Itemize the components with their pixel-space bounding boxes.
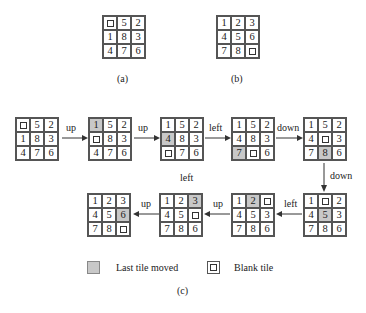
tile: 6 bbox=[260, 146, 274, 160]
tile: 7 bbox=[30, 146, 44, 160]
tile: 1 bbox=[217, 16, 231, 30]
blank-tile-icon bbox=[107, 20, 114, 27]
tile: 8 bbox=[30, 132, 44, 146]
tile: 4 bbox=[232, 132, 246, 146]
tile: 1 bbox=[232, 194, 246, 208]
tile: 7 bbox=[232, 222, 246, 236]
tile: 5 bbox=[102, 208, 116, 222]
tile: 6 bbox=[131, 44, 145, 58]
arrow-left-icon bbox=[276, 210, 302, 218]
tile: 3 bbox=[44, 132, 58, 146]
tile: 4 bbox=[304, 132, 318, 146]
tile: 8 bbox=[174, 222, 188, 236]
blank-tile bbox=[161, 146, 175, 160]
tile: 5 bbox=[318, 208, 332, 222]
tile: 3 bbox=[189, 132, 203, 146]
tile: 8 bbox=[246, 132, 260, 146]
blank-tile bbox=[318, 194, 332, 208]
tile: 8 bbox=[318, 146, 332, 160]
tile: 5 bbox=[175, 118, 189, 132]
blank-tile bbox=[245, 44, 259, 58]
tile: 7 bbox=[217, 44, 231, 58]
tile: 8 bbox=[102, 222, 116, 236]
tile: 7 bbox=[88, 222, 102, 236]
tile: 5 bbox=[231, 30, 245, 44]
sequence-grid-6: 12453786 bbox=[303, 193, 347, 237]
tile: 4 bbox=[217, 30, 231, 44]
legend-moved-label: Last tile moved bbox=[116, 262, 178, 273]
tile: 8 bbox=[103, 132, 117, 146]
move-label-6: left bbox=[284, 198, 297, 209]
tile: 2 bbox=[332, 118, 346, 132]
tile: 6 bbox=[332, 222, 346, 236]
tile: 1 bbox=[304, 118, 318, 132]
sequence-grid-4: 15248376 bbox=[231, 117, 275, 161]
blank-tile-icon bbox=[120, 226, 127, 233]
sequence-grid-8: 12345786 bbox=[159, 193, 203, 237]
tile: 6 bbox=[245, 30, 259, 44]
puzzle-grid-a: 52183476 bbox=[102, 15, 146, 59]
arrow-right-icon bbox=[205, 134, 231, 142]
move-label-4: down bbox=[277, 122, 299, 133]
arrow-right-icon bbox=[62, 134, 88, 142]
puzzle-grid-b: 12345678 bbox=[216, 15, 260, 59]
blank-tile-icon bbox=[322, 198, 329, 205]
sequence-grid-1: 52183476 bbox=[15, 117, 59, 161]
blank-tile-icon bbox=[165, 150, 172, 157]
tile: 3 bbox=[116, 194, 130, 208]
tile: 2 bbox=[332, 194, 346, 208]
legend-blank-swatch bbox=[207, 261, 220, 274]
tile: 5 bbox=[30, 118, 44, 132]
tile: 8 bbox=[175, 132, 189, 146]
tile: 6 bbox=[260, 222, 274, 236]
tile: 2 bbox=[102, 194, 116, 208]
blank-tile-icon bbox=[210, 264, 217, 271]
tile: 5 bbox=[246, 208, 260, 222]
arrow-down-icon bbox=[320, 163, 328, 192]
tile: 3 bbox=[332, 132, 346, 146]
blank-tile bbox=[103, 16, 117, 30]
move-label-3: left bbox=[209, 122, 222, 133]
tile: 3 bbox=[117, 132, 131, 146]
blank-tile bbox=[16, 118, 30, 132]
blank-tile bbox=[260, 194, 274, 208]
tile: 7 bbox=[175, 146, 189, 160]
tile: 4 bbox=[304, 208, 318, 222]
tile: 6 bbox=[117, 146, 131, 160]
move-label-2: up bbox=[138, 122, 148, 133]
move-label-7: up bbox=[213, 198, 223, 209]
tile: 2 bbox=[260, 118, 274, 132]
sequence-grid-9: 12345678 bbox=[87, 193, 131, 237]
blank-tile-icon bbox=[20, 122, 27, 129]
tile: 1 bbox=[304, 194, 318, 208]
tile: 2 bbox=[231, 16, 245, 30]
legend-moved-swatch bbox=[87, 261, 100, 274]
blank-tile bbox=[246, 146, 260, 160]
tile: 6 bbox=[189, 146, 203, 160]
tile: 8 bbox=[117, 30, 131, 44]
caption-b: (b) bbox=[231, 73, 243, 84]
tile: 2 bbox=[44, 118, 58, 132]
tile: 8 bbox=[318, 222, 332, 236]
tile: 2 bbox=[174, 194, 188, 208]
floating-move-label: left bbox=[180, 172, 193, 183]
blank-tile bbox=[318, 132, 332, 146]
blank-tile-icon bbox=[192, 212, 199, 219]
tile: 5 bbox=[318, 118, 332, 132]
tile: 8 bbox=[246, 222, 260, 236]
tile: 1 bbox=[161, 118, 175, 132]
tile: 3 bbox=[188, 194, 202, 208]
blank-tile-icon bbox=[93, 136, 100, 143]
tile: 5 bbox=[246, 118, 260, 132]
arrow-left-icon bbox=[204, 210, 230, 218]
tile: 2 bbox=[131, 16, 145, 30]
tile: 7 bbox=[304, 222, 318, 236]
tile: 2 bbox=[189, 118, 203, 132]
tile: 3 bbox=[260, 132, 274, 146]
tile: 3 bbox=[245, 16, 259, 30]
tile: 4 bbox=[232, 208, 246, 222]
tile: 5 bbox=[103, 118, 117, 132]
tile: 1 bbox=[89, 118, 103, 132]
blank-tile-icon bbox=[264, 198, 271, 205]
tile: 8 bbox=[231, 44, 245, 58]
